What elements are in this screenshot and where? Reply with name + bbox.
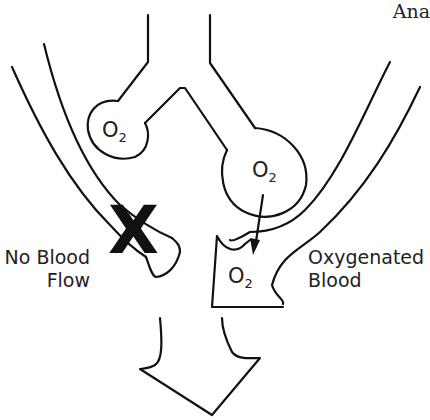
oxygenated-line1: Oxygenated: [308, 246, 424, 269]
no-blood-flow-line1: No Blood: [2, 246, 90, 269]
oxygenated-line2: Blood: [308, 269, 424, 292]
o2-symbol: O: [228, 264, 245, 288]
no-blood-flow-line2: Flow: [2, 269, 90, 292]
o2-large-alveolus: O2: [252, 158, 277, 185]
o2-symbol: O: [252, 158, 269, 182]
o2-small-alveolus: O2: [102, 118, 127, 145]
ventilation-perfusion-diagram: [0, 0, 430, 420]
large-down-arrow-icon: [140, 318, 260, 415]
o2-symbol: O: [102, 118, 119, 142]
o2-vessel: O2: [228, 264, 253, 291]
arrow-down-icon: [250, 195, 263, 255]
x-mark-icon: X: [108, 198, 159, 264]
airway: [88, 15, 307, 217]
o2-subscript: 2: [119, 130, 127, 145]
cropped-heading: Ana: [393, 0, 430, 22]
oxygenated-blood-label: Oxygenated Blood: [308, 246, 424, 292]
no-blood-flow-label: No Blood Flow: [2, 246, 90, 292]
o2-subscript: 2: [269, 170, 277, 185]
o2-subscript: 2: [245, 276, 253, 291]
